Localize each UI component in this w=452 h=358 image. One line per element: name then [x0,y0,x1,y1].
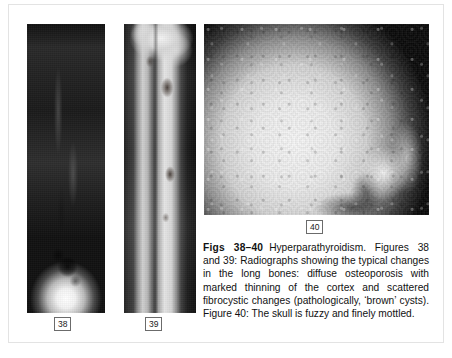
radiograph-39-film-grain [124,24,196,313]
radiograph-skull-40 [204,24,429,215]
radiograph-40-film-grain [204,24,429,215]
figure-number-label-38: 38 [54,317,71,331]
radiograph-38-film-grain [27,24,105,313]
figure-page: 38 39 40 Figs 38–40Hyperparathyroidism. … [8,4,444,343]
figure-number-label-40: 40 [306,220,323,234]
radiograph-long-bone-38 [27,24,105,313]
radiograph-long-bone-39 [124,24,196,313]
caption-lead: Figs 38–40 [203,242,263,253]
figure-number-label-39: 39 [145,317,162,331]
caption-body: Hyperparathyroidism. Figures 38 and 39: … [203,242,429,319]
figure-caption: Figs 38–40Hyperparathyroidism. Figures 3… [203,241,429,320]
